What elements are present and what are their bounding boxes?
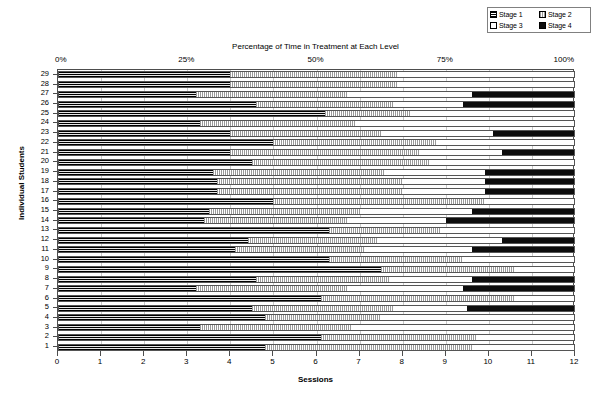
x-axis-tick-mark-7 [359,351,360,356]
bar-segment-stage2 [381,266,515,273]
y-axis-tick-mark-12 [53,239,57,240]
bar-segment-stage2 [230,81,398,88]
chart-root: Stage 1 Stage 2 Stage 3 Stage 4 Percenta… [0,0,598,404]
bar-segment-stage2 [321,334,476,341]
bar-segment-stage2 [230,71,398,78]
bar-segment-stage3 [429,159,575,166]
legend-item-stage-2: Stage 2 [539,11,588,19]
x-axis-tick-0: 0 [55,357,59,367]
bar-segment-stage4 [472,208,575,215]
bar-segment-stage4 [463,285,575,292]
y-axis-tick-3: 3 [45,323,49,331]
legend-row-1: Stage 1 Stage 2 [490,9,588,20]
y-axis-tick-mark-23 [53,132,57,133]
bar-segment-stage2 [273,198,484,205]
bar-row [58,314,573,321]
y-axis-tick-mark-9 [53,268,57,269]
y-axis-tick-mark-4 [53,317,57,318]
y-axis-tick-mark-26 [53,103,57,104]
y-axis-tick-mark-3 [53,327,57,328]
bar-row [58,139,573,146]
y-axis-tick-8: 8 [45,274,49,282]
bar-segment-stage4 [485,178,575,185]
bar-segment-stage2 [252,159,429,166]
bar-segment-stage1 [58,217,204,224]
legend-row-2: Stage 3 Stage 4 [490,20,588,31]
x-axis-title: Sessions [57,375,574,385]
y-axis-tick-28: 28 [41,80,49,88]
bar-segment-stage4 [493,130,575,137]
x-axis-tick-8: 8 [399,357,403,367]
bar-row [58,285,573,292]
bar-row [58,246,573,253]
bar-segment-stage1 [58,256,329,263]
bar-row [58,324,573,331]
bar-segment-stage2 [256,276,390,283]
bar-segment-stage3 [351,324,575,331]
bar-segment-stage1 [58,188,217,195]
bar-segment-stage4 [502,149,575,156]
bar-segment-stage2 [273,139,437,146]
bar-segment-stage3 [515,266,575,273]
bar-segment-stage1 [58,110,325,117]
bar-segment-stage3 [360,208,472,215]
bar-segment-stage1 [58,344,265,351]
bar-segment-stage3 [381,130,493,137]
y-axis-tick-mark-18 [53,181,57,182]
x-axis-tick-2: 2 [141,357,145,367]
bar-segment-stage3 [398,81,575,88]
x-axis-tick-mark-4 [229,351,230,356]
bar-segment-stage1 [58,295,321,302]
bar-segment-stage1 [58,208,209,215]
y-axis-tick-25: 25 [41,109,49,117]
bar-segment-stage3 [403,178,485,185]
bar-row [58,178,573,185]
y-axis-tick-14: 14 [41,216,49,224]
y-axis-tick-23: 23 [41,128,49,136]
x-axis-tick-mark-11 [531,351,532,356]
y-axis-tick-mark-16 [53,200,57,201]
bar-row [58,334,573,341]
y-axis-tick-20: 20 [41,157,49,165]
bar-row [58,149,573,156]
top-axis-tick-25: 25% [178,55,194,65]
y-axis-tick-12: 12 [41,235,49,243]
bar-row [58,130,573,137]
y-axis-tick-mark-11 [53,249,57,250]
y-axis-tick-mark-6 [53,298,57,299]
y-axis-tick-11: 11 [41,245,49,253]
legend-swatch-stage-4-icon [539,22,546,29]
bar-segment-stage1 [58,305,252,312]
bar-segment-stage3 [485,198,575,205]
y-axis-tick-19: 19 [41,167,49,175]
bar-row [58,344,573,351]
bar-segment-stage3 [347,91,472,98]
bar-segment-stage3 [347,217,446,224]
y-axis-tick-mark-7 [53,288,57,289]
bar-segment-stage3 [390,276,472,283]
bar-segment-stage1 [58,139,273,146]
x-axis-tick-3: 3 [184,357,188,367]
x-axis-tick-5: 5 [270,357,274,367]
bar-row [58,276,573,283]
y-axis-tick-mark-19 [53,171,57,172]
y-axis-tick-18: 18 [41,177,49,185]
bar-segment-stage1 [58,81,230,88]
legend-swatch-stage-3-icon [490,22,497,29]
bar-segment-stage4 [485,188,575,195]
bar-segment-stage1 [58,71,230,78]
y-axis-tick-mark-22 [53,142,57,143]
bar-row [58,217,573,224]
y-axis-tick-9: 9 [45,264,49,272]
bar-segment-stage3 [355,120,575,127]
bar-segment-stage2 [230,130,381,137]
top-axis-tick-100: 100% [554,55,574,65]
y-axis-tick-22: 22 [41,138,49,146]
bar-segment-stage4 [472,246,575,253]
bar-segment-stage2 [321,295,515,302]
x-axis-tick-mark-8 [402,351,403,356]
bar-segment-stage2 [256,101,394,108]
x-axis-tick-1: 1 [98,357,102,367]
y-axis-tick-29: 29 [41,70,49,78]
bar-row [58,91,573,98]
